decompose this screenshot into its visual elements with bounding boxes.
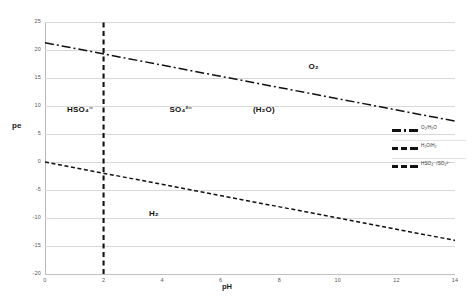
legend-swatch xyxy=(392,165,418,168)
legend-swatch xyxy=(392,129,418,132)
legend-label: H₂O/H₂ xyxy=(421,143,437,148)
legend: O₂/H₂OH₂O/H₂HSO₄⁻/SO₄²⁻ xyxy=(392,122,466,176)
legend-swatch xyxy=(392,147,418,150)
legend-item: H₂O/H₂ xyxy=(392,140,466,158)
region-label: HSO₄⁻ xyxy=(67,105,93,114)
pe-ph-predominance-chart: 2520151050-5-10-15-20 02468101214 pe pH … xyxy=(0,0,472,301)
series-line-o2-h2o xyxy=(45,43,455,121)
region-label: H₂ xyxy=(149,209,159,218)
region-label: SO₄²⁻ xyxy=(169,105,192,114)
legend-label: O₂/H₂O xyxy=(421,125,437,130)
legend-item: O₂/H₂O xyxy=(392,122,466,140)
region-label: (H₂O) xyxy=(253,105,275,114)
legend-label: HSO₄⁻/SO₄²⁻ xyxy=(421,161,451,166)
legend-item: HSO₄⁻/SO₄²⁻ xyxy=(392,158,466,176)
region-label: O₂ xyxy=(309,62,319,71)
